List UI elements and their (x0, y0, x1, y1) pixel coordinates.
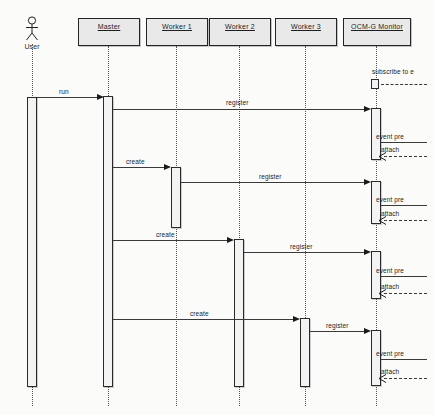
msg-label-event-pre-2: event pre (376, 196, 404, 203)
msg-arrow-register-3 (364, 249, 371, 255)
msg-label-event-pre-1: event pre (376, 133, 404, 140)
msg-label-register-3: register (290, 243, 312, 250)
msg-line-event-pre-1 (381, 142, 427, 143)
lifeline-head-worker3[interactable]: Worker 3 (275, 18, 337, 46)
lifeline-head-worker1-label: Worker 1 (162, 23, 192, 30)
lifeline-head-worker2-label: Worker 2 (225, 23, 255, 30)
msg-arrow-attach-1 (378, 152, 387, 161)
lifeline-head-master-label: Master (98, 23, 121, 30)
msg-label-create-3: create (190, 310, 209, 317)
msg-line-run (37, 97, 101, 98)
msg-label-create-2: create (156, 231, 175, 238)
lifeline-head-monitor-label: OCM-G Monitor (351, 23, 403, 30)
msg-label-event-pre-4: event pre (376, 350, 404, 357)
msg-line-register-1 (113, 109, 366, 110)
msg-line-create-3 (113, 319, 295, 320)
msg-label-subscribe: subscribe to e (372, 68, 414, 75)
activation-user[interactable] (27, 97, 37, 387)
msg-arrow-attach-4 (378, 374, 387, 383)
activation-worker1[interactable] (171, 167, 181, 228)
lifeline-head-worker1[interactable]: Worker 1 (146, 18, 208, 46)
msg-arrow-run (97, 94, 104, 100)
msg-label-create-1: create (126, 158, 145, 165)
lifeline-head-worker3-label: Worker 3 (291, 23, 321, 30)
msg-line-create-1 (113, 167, 166, 168)
msg-label-event-pre-3: event pre (376, 267, 404, 274)
msg-line-attach-4 (384, 378, 427, 379)
msg-arrow-create-1 (164, 164, 171, 170)
msg-line-attach-1 (384, 156, 427, 157)
msg-line-event-pre-4 (381, 359, 427, 360)
msg-arrow-attach-3 (378, 289, 387, 298)
lifeline-head-worker2[interactable]: Worker 2 (209, 18, 271, 46)
msg-line-register-4 (310, 331, 366, 332)
msg-arrow-register-1 (364, 106, 371, 112)
msg-label-register-1: register (226, 99, 248, 106)
msg-arrow-register-2 (364, 179, 371, 185)
msg-arrow-attach-2 (378, 216, 387, 225)
msg-line-attach-3 (384, 293, 427, 294)
activation-master[interactable] (103, 96, 113, 387)
sequence-diagram-canvas: User Master Worker 1 Worker 2 Worker 3 O… (0, 0, 434, 415)
msg-arrow-create-3 (293, 316, 300, 322)
msg-line-register-2 (181, 182, 366, 183)
msg-line-event-pre-2 (381, 205, 427, 206)
msg-line-subscribe (381, 84, 427, 85)
activation-worker2[interactable] (234, 239, 244, 387)
msg-label-register-4: register (326, 322, 348, 329)
activation-monitor-subscribe[interactable] (371, 79, 379, 89)
msg-label-run: run (59, 88, 69, 95)
msg-arrow-register-4 (364, 328, 371, 334)
activation-worker3[interactable] (300, 318, 310, 387)
msg-line-event-pre-3 (381, 276, 427, 277)
stick-figure-actor-icon (22, 16, 42, 42)
lifeline-head-master[interactable]: Master (78, 18, 140, 46)
msg-arrow-create-2 (227, 237, 234, 243)
msg-line-create-2 (113, 240, 229, 241)
msg-label-register-2: register (259, 173, 281, 180)
lifeline-head-monitor[interactable]: OCM-G Monitor (343, 18, 411, 46)
msg-line-register-3 (244, 252, 366, 253)
msg-line-attach-2 (384, 220, 427, 221)
